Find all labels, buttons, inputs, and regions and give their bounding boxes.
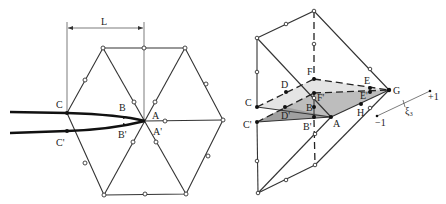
figure: L (0, 0, 446, 204)
label-a-prime: A' (153, 126, 162, 137)
diagram-canvas: L (0, 0, 446, 204)
axis-minus-label: −1 (375, 117, 386, 128)
left-lower-edge (257, 122, 258, 193)
axis-plus-label: +1 (428, 91, 439, 102)
label-c-prime: C' (243, 119, 252, 130)
xi3-axis: −1 +1 ξ₃ (375, 90, 439, 128)
right-panel: C C' D D' F F' B B' A E E' H G −1 +1 ξ₃ (243, 9, 439, 195)
label-c: C (56, 99, 63, 110)
label-f: F (307, 66, 313, 77)
hidden-vertical-bottom (314, 120, 315, 165)
label-b-prime: B' (303, 121, 312, 132)
label-f-prime: F' (317, 92, 325, 103)
label-b: B (306, 102, 313, 113)
label-c: C (245, 97, 252, 108)
label-g: G (393, 85, 400, 96)
label-h: H (357, 107, 364, 118)
arrow-left-icon (68, 26, 73, 30)
label-e: E (364, 75, 370, 86)
diagonal-a-to-bottom (258, 117, 331, 193)
dimension-label: L (101, 16, 107, 27)
label-c-prime: C' (56, 137, 65, 148)
label-a: A (333, 118, 341, 129)
arrow-right-icon (138, 26, 143, 30)
label-b: B (119, 102, 126, 113)
axis-symbol-label: ξ₃ (405, 105, 413, 117)
label-e-prime: E' (360, 90, 368, 101)
left-open-nodes (83, 46, 225, 197)
label-d: D (281, 79, 288, 90)
label-b-prime: B' (118, 129, 127, 140)
left-panel: L (10, 16, 225, 197)
label-a: A (152, 110, 160, 121)
label-d-prime: D' (281, 110, 290, 121)
